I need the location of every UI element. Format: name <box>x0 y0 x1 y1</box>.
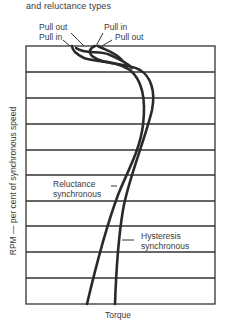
y-axis-label: RPM — per cent of synchronous speed <box>8 106 18 256</box>
pull-in-right-label: Pull in <box>104 23 127 32</box>
x-axis-label: Torque <box>105 310 131 320</box>
pull-in-left-label: Pull in <box>39 33 62 42</box>
pull-out-left-leader <box>71 33 84 46</box>
reluctance-label-line1: Reluctance <box>53 180 96 189</box>
pull-out-right-leader <box>102 40 112 46</box>
chart-plot <box>0 0 226 325</box>
pull-out-right-label: Pull out <box>115 33 143 42</box>
reluctance-label-line2: synchronous <box>53 190 101 199</box>
grid-frame <box>26 46 215 304</box>
pull-out-left-label: Pull out <box>39 23 67 32</box>
pull-in-left-leader <box>63 40 70 46</box>
hysteresis-label-line2: synchronous <box>141 242 189 251</box>
hysteresis-label-line1: Hysteresis <box>141 232 181 241</box>
pull-in-right-leader <box>96 33 103 46</box>
